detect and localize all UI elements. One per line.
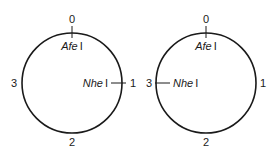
right-position-3: 3 — [146, 77, 152, 89]
left-afei-label: AfeI — [60, 40, 83, 52]
right-nhei-label: NheI — [173, 77, 198, 89]
right-position-1: 1 — [260, 77, 266, 89]
left-position-2: 2 — [69, 136, 75, 148]
left-position-0: 0 — [69, 13, 75, 25]
right-afei-label: AfeI — [194, 40, 217, 52]
right-position-0: 0 — [203, 13, 209, 25]
plasmid-diagrams: 0 1 2 3 AfeI NheI 0 1 2 3 AfeI NheI — [0, 0, 278, 153]
left-nhei-label: NheI — [83, 77, 108, 89]
left-plasmid-map: 0 1 2 3 AfeI NheI — [11, 13, 136, 148]
right-plasmid-map: 0 1 2 3 AfeI NheI — [146, 13, 266, 148]
right-position-2: 2 — [203, 136, 209, 148]
left-position-3: 3 — [11, 77, 17, 89]
left-position-1: 1 — [130, 77, 136, 89]
